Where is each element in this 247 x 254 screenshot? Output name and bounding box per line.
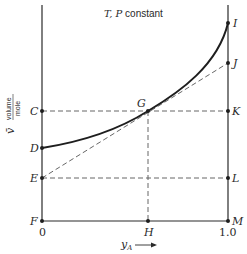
- svg-text:v̄: v̄: [4, 127, 17, 134]
- label-c: C: [30, 105, 39, 118]
- point-j: [226, 61, 230, 65]
- point-g: [146, 109, 150, 113]
- point-e: [40, 176, 44, 180]
- partial-molar-volume-diagram: T, P constant C D E F G H I J K L M 0 1.…: [0, 0, 247, 254]
- label-i: I: [232, 17, 238, 30]
- label-l: L: [231, 172, 239, 185]
- x-tick-0: 0: [39, 226, 46, 239]
- tangent-line-e-j: [42, 63, 228, 178]
- label-k: K: [231, 105, 241, 118]
- svg-text:yA: yA: [120, 238, 132, 252]
- svg-text:volume: volume: [5, 97, 12, 120]
- x-axis-label: yA: [120, 238, 157, 252]
- point-f: [40, 219, 44, 223]
- point-h: [146, 219, 150, 223]
- y-axis-label: v̄ volume mole: [4, 94, 21, 134]
- diagram-title: T, P constant: [104, 8, 163, 19]
- point-m: [226, 219, 230, 223]
- point-d: [40, 146, 44, 150]
- point-l: [226, 176, 230, 180]
- label-j: J: [231, 57, 238, 70]
- svg-text:mole: mole: [14, 101, 21, 116]
- point-markers: [40, 21, 230, 223]
- label-e: E: [29, 172, 38, 185]
- molar-volume-curve: [42, 23, 228, 148]
- label-d: D: [29, 142, 39, 155]
- point-c: [40, 109, 44, 113]
- x-tick-1: 1.0: [219, 226, 237, 239]
- label-f: F: [29, 215, 38, 228]
- point-k: [226, 109, 230, 113]
- label-g: G: [137, 97, 146, 110]
- label-h: H: [143, 226, 154, 239]
- point-i: [226, 21, 230, 25]
